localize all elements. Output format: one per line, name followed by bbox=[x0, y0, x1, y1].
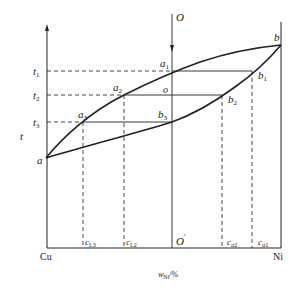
point-a-label: a bbox=[37, 154, 43, 166]
axes bbox=[45, 22, 281, 248]
ca2-label: cα2 bbox=[227, 237, 237, 248]
cL3-label: cL3 bbox=[85, 237, 96, 248]
temperature-dashed-lines bbox=[47, 71, 172, 122]
y-axis-arrow-icon bbox=[45, 24, 49, 31]
t2-label: t2 bbox=[33, 89, 40, 103]
point-b3-label: b3 bbox=[158, 108, 168, 122]
phase-diagram: t1 t2 t3 t a b O a1 a2 a3 b1 b2 b3 o O′ … bbox=[0, 0, 301, 288]
point-a2-label: a2 bbox=[113, 81, 123, 95]
t3-label: t3 bbox=[33, 116, 40, 130]
cooling-arrow-icon bbox=[170, 45, 174, 52]
tie-lines bbox=[83, 71, 252, 122]
composition-dashed-lines bbox=[83, 71, 252, 248]
point-b2-label: b2 bbox=[228, 93, 238, 107]
point-b1-label: b1 bbox=[258, 69, 268, 83]
x-axis-label: wNi/% bbox=[158, 270, 179, 280]
point-a1-label: a1 bbox=[160, 57, 170, 71]
alloy-composition-line bbox=[170, 14, 174, 248]
cL2-label: cL2 bbox=[126, 237, 137, 248]
point-o-label: o bbox=[163, 84, 168, 95]
point-a3-label: a3 bbox=[78, 108, 88, 122]
cu-label: Cu bbox=[40, 251, 52, 262]
ca1-label: cα1 bbox=[258, 237, 268, 248]
point-O-prime-label: O′ bbox=[176, 233, 186, 247]
point-b-label: b bbox=[274, 31, 280, 43]
point-O-label: O bbox=[176, 11, 184, 23]
y-axis-label: t bbox=[20, 130, 24, 142]
ni-label: Ni bbox=[273, 251, 283, 262]
t1-label: t1 bbox=[33, 65, 40, 79]
